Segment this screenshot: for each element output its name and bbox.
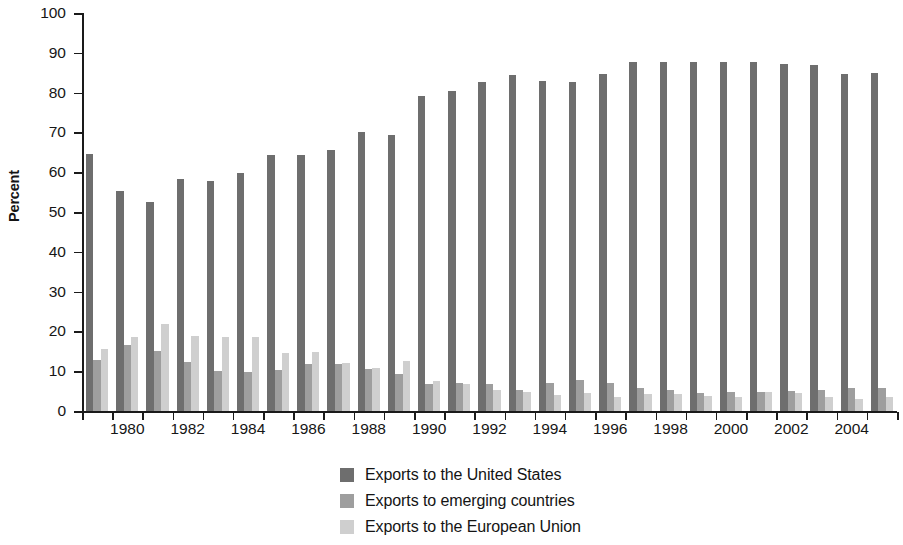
bar	[795, 393, 802, 411]
y-axis-tick-label: 0	[0, 402, 66, 420]
x-axis-tick-label: 1998	[653, 420, 687, 438]
bar	[554, 395, 561, 411]
x-axis-line	[82, 411, 897, 413]
bar	[116, 191, 123, 411]
x-axis-tick-label: 2002	[774, 420, 808, 438]
bar	[184, 362, 191, 411]
y-axis-tick-label: 90	[0, 44, 66, 62]
legend-item-label: Exports to emerging countries	[365, 492, 575, 510]
x-axis-tick	[716, 412, 718, 420]
x-axis-tick	[595, 412, 597, 420]
x-axis-tick	[233, 412, 235, 420]
y-axis-tick-label: 60	[0, 163, 66, 181]
y-axis-tick-label: 10	[0, 362, 66, 380]
bar	[433, 381, 440, 411]
bar	[342, 363, 349, 411]
bar	[674, 394, 681, 412]
x-axis-tick-label: 2004	[834, 420, 868, 438]
x-axis-tick	[535, 412, 537, 420]
legend-item-label: Exports to the European Union	[365, 518, 581, 536]
bar	[660, 62, 667, 411]
bar	[86, 154, 93, 412]
bar	[509, 75, 516, 411]
bar	[252, 337, 259, 411]
x-axis-tick	[82, 412, 84, 420]
x-axis-tick	[686, 412, 688, 420]
legend-swatch-icon	[340, 520, 354, 534]
bar	[312, 352, 319, 411]
bar	[305, 364, 312, 411]
y-axis-tick-label: 40	[0, 243, 66, 261]
bar	[395, 374, 402, 411]
x-axis-tick	[173, 412, 175, 420]
bar	[358, 132, 365, 411]
bar	[335, 364, 342, 411]
bar	[327, 150, 334, 411]
y-axis-tick	[74, 132, 82, 134]
bar	[523, 392, 530, 411]
x-axis-tick	[384, 412, 386, 420]
x-axis-tick	[323, 412, 325, 420]
bar	[463, 384, 470, 411]
bar	[456, 383, 463, 411]
y-axis-tick-label: 80	[0, 84, 66, 102]
bar	[146, 202, 153, 411]
bar	[871, 73, 878, 411]
bar	[101, 349, 108, 411]
bar	[765, 392, 772, 411]
x-axis-tick	[565, 412, 567, 420]
x-axis-tick	[837, 412, 839, 420]
bar	[848, 388, 855, 411]
bar	[780, 64, 787, 411]
bar	[727, 392, 734, 411]
bar	[735, 397, 742, 411]
bar	[297, 155, 304, 411]
bar	[704, 396, 711, 411]
bar	[629, 62, 636, 411]
y-axis-tick	[74, 53, 82, 55]
x-axis-tick	[867, 412, 869, 420]
bar	[855, 399, 862, 411]
bar	[214, 371, 221, 411]
bar	[886, 397, 893, 411]
bar	[539, 81, 546, 411]
x-axis-tick-label: 1988	[352, 420, 386, 438]
bar	[282, 353, 289, 411]
x-axis-tick-label: 1980	[110, 420, 144, 438]
bar	[448, 91, 455, 411]
x-axis-tick	[746, 412, 748, 420]
x-axis-tick	[112, 412, 114, 420]
bar	[584, 393, 591, 411]
bar	[750, 62, 757, 411]
y-axis-tick-label: 20	[0, 322, 66, 340]
plot-area	[82, 13, 897, 411]
bar	[810, 65, 817, 411]
x-axis-tick	[444, 412, 446, 420]
bar	[418, 96, 425, 411]
y-axis-tick-label: 50	[0, 203, 66, 221]
x-axis-tick	[806, 412, 808, 420]
x-axis-tick	[263, 412, 265, 420]
x-axis-tick-label: 1994	[533, 420, 567, 438]
y-axis-tick	[74, 93, 82, 95]
y-axis-tick	[74, 252, 82, 254]
bar	[207, 181, 214, 411]
bar	[244, 372, 251, 411]
y-axis-tick	[74, 331, 82, 333]
bar	[177, 179, 184, 411]
legend-swatch-icon	[340, 468, 354, 482]
bar	[644, 394, 651, 411]
bar	[131, 337, 138, 411]
bar	[569, 82, 576, 411]
y-axis-tick-label: 70	[0, 123, 66, 141]
x-axis-tick	[474, 412, 476, 420]
y-axis-tick-label: 30	[0, 283, 66, 301]
bar	[478, 82, 485, 411]
x-axis-tick-label: 1982	[170, 420, 204, 438]
bar	[599, 74, 606, 411]
bar	[486, 384, 493, 411]
bar	[425, 384, 432, 411]
bar	[788, 391, 795, 411]
bar	[690, 62, 697, 411]
y-axis-tick	[74, 212, 82, 214]
